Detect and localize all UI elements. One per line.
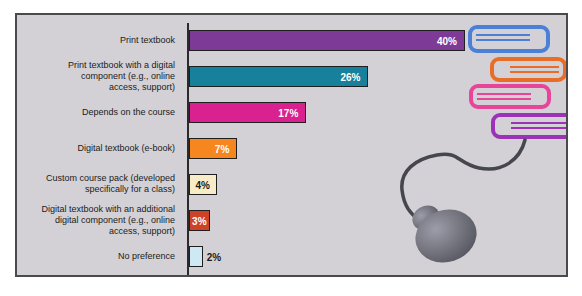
book-pages [510,66,559,73]
blue-book-icon [468,25,550,53]
category-label: Depends on the course [17,107,181,118]
bar: 2% [189,246,203,267]
category-label: Digital textbook with an additional digi… [17,204,181,237]
chart-row: Custom course pack (developed specifical… [17,166,566,202]
bar-track: 2% [189,246,566,267]
value-label: 40% [437,31,457,52]
value-label: 26% [340,67,360,88]
category-label: No preference [17,251,181,262]
bar: 17% [189,102,306,123]
chart-panel: Print textbook40%Print textbook with a d… [15,13,568,277]
chart-row: No preference2% [17,238,566,274]
category-label: Digital textbook (e-book) [17,143,181,154]
value-label: 4% [190,175,216,196]
orange-book-icon [490,57,567,82]
category-label: Print textbook [17,35,181,46]
chart-row: Digital textbook with an additional digi… [17,202,566,238]
value-label: 3% [190,211,209,232]
book-pages [476,34,530,44]
value-label: 2% [207,247,221,268]
bar-track: 4% [189,174,566,195]
category-label: Print textbook with a digital component … [17,60,181,93]
bar: 3% [189,210,210,231]
purple-book-icon [491,113,568,139]
bar-track: 7% [189,138,566,159]
book-pages [477,93,531,100]
book-pages [511,122,568,130]
chart-rows: Print textbook40%Print textbook with a d… [17,22,566,274]
chart-row: Digital textbook (e-book)7% [17,130,566,166]
category-label: Custom course pack (developed specifical… [17,173,181,195]
bar: 40% [189,30,465,51]
value-label: 17% [278,103,298,124]
bar: 4% [189,174,217,195]
value-label: 7% [215,139,229,160]
bar-track: 3% [189,210,566,231]
bar: 26% [189,66,368,87]
pink-book-icon [469,84,551,109]
bar: 7% [189,138,237,159]
